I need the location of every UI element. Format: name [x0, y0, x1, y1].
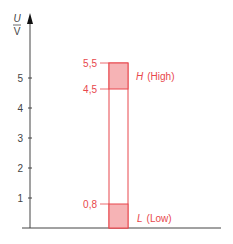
logic-level-diagram: U V 1 2 3 4 5 5,5 4,5 0,8 H(High) L(Low): [0, 0, 233, 244]
label-5-5: 5,5: [83, 58, 97, 69]
y-tick-3: 3: [17, 133, 23, 144]
label-4-5: 4,5: [83, 84, 97, 95]
low-label: L(Low): [137, 213, 172, 224]
y-tick-4: 4: [17, 103, 23, 114]
high-label: H(High): [136, 71, 174, 82]
y-tick-2: 2: [17, 163, 23, 174]
y-label-denominator: V: [14, 26, 21, 37]
label-0-8: 0,8: [83, 199, 97, 210]
y-tick-1: 1: [17, 193, 23, 204]
y-tick-5: 5: [17, 73, 23, 84]
y-axis-arrow-icon: [27, 13, 33, 24]
high-level-band: [109, 63, 128, 89]
y-label-numerator: U: [13, 13, 21, 24]
low-level-band: [109, 204, 128, 228]
